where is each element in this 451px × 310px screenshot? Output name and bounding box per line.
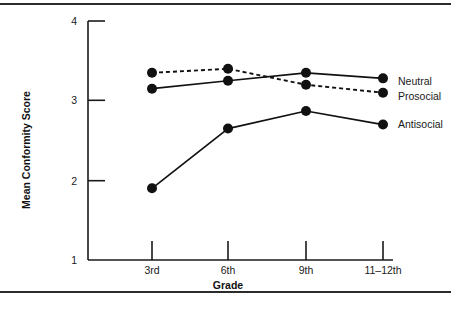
series-label-antisocial: Antisocial: [398, 118, 443, 130]
y-tick-label-3: 3: [71, 94, 77, 106]
y-axis: 4 3 2 1 Mean Conformity Score: [20, 15, 105, 266]
data-point: [223, 64, 233, 74]
data-point: [378, 120, 388, 130]
series-layer: [147, 64, 388, 194]
series-label-neutral: Neutral: [398, 75, 432, 87]
y-axis-title: Mean Conformity Score: [20, 91, 32, 209]
series-line-neutral: [152, 73, 383, 89]
series-line-prosocial: [152, 69, 383, 93]
data-point: [147, 183, 157, 193]
data-point: [378, 73, 388, 83]
x-tick-label-9th: 9th: [299, 264, 314, 276]
y-tick-label-1: 1: [71, 254, 77, 266]
x-tick-label-3rd: 3rd: [144, 264, 159, 276]
data-point: [147, 84, 157, 94]
series-line-antisocial: [152, 111, 383, 188]
data-point: [147, 68, 157, 78]
series-antisocial: [147, 106, 388, 193]
data-point: [301, 106, 311, 116]
series-label-group: Neutral Prosocial Antisocial: [398, 75, 443, 130]
x-axis: 3rd 6th 9th 11–12th Grade: [88, 241, 402, 291]
data-point: [301, 80, 311, 90]
x-tick-label-6th: 6th: [221, 264, 236, 276]
series-prosocial: [147, 64, 388, 98]
data-point: [301, 68, 311, 78]
x-axis-title: Grade: [213, 279, 244, 291]
y-tick-label-2: 2: [71, 175, 77, 187]
data-point: [223, 76, 233, 86]
data-point: [378, 88, 388, 98]
series-label-prosocial: Prosocial: [398, 90, 441, 102]
line-chart: 4 3 2 1 Mean Conformity Score 3rd 6th 9t…: [0, 0, 451, 310]
data-point: [223, 124, 233, 134]
y-tick-label-4: 4: [71, 15, 77, 27]
x-tick-label-11-12th: 11–12th: [364, 264, 401, 276]
figure-root: 4 3 2 1 Mean Conformity Score 3rd 6th 9t…: [0, 0, 451, 310]
